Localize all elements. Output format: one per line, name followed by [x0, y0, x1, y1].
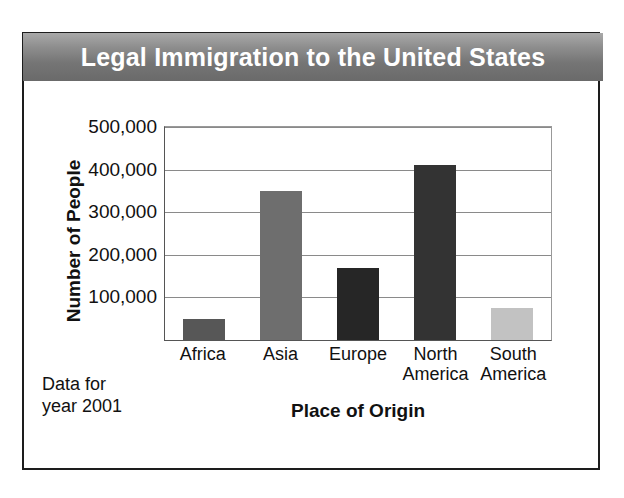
x-tick-label: Asia: [242, 344, 320, 384]
bar: [260, 191, 302, 340]
y-tick-label: 300,000: [88, 201, 157, 223]
bar: [183, 319, 225, 340]
data-note-line-2: year 2001: [42, 396, 122, 418]
bar-slot: [165, 127, 242, 340]
data-note: Data for year 2001: [42, 374, 122, 417]
x-tick-label: Africa: [164, 344, 242, 384]
chart-figure: Legal Immigration to the United States N…: [22, 32, 600, 470]
x-tick-label: Europe: [319, 344, 397, 384]
bar-series: [165, 127, 551, 340]
chart-title: Legal Immigration to the United States: [81, 43, 546, 72]
bar: [491, 308, 533, 340]
y-tick-label: 200,000: [88, 244, 157, 266]
bar-slot: [242, 127, 319, 340]
y-axis-label: Number of People: [63, 151, 85, 331]
data-note-line-1: Data for: [42, 374, 122, 396]
x-tick-label: SouthAmerica: [474, 344, 552, 384]
chart-title-band: Legal Immigration to the United States: [23, 33, 603, 81]
bar-slot: [319, 127, 396, 340]
y-tick-label: 100,000: [88, 286, 157, 308]
bar: [414, 165, 456, 340]
x-axis-label: Place of Origin: [164, 400, 552, 422]
bar-slot: [474, 127, 551, 340]
x-tick-labels: AfricaAsiaEuropeNorthAmericaSouthAmerica: [164, 344, 552, 384]
bar: [337, 268, 379, 340]
chart-plot-area: Number of People 100,000200,000300,00040…: [24, 82, 598, 468]
y-tick-label: 500,000: [88, 116, 157, 138]
bar-slot: [397, 127, 474, 340]
y-tick-label: 400,000: [88, 159, 157, 181]
plot-box: 100,000200,000300,000400,000500,000: [164, 126, 552, 341]
x-tick-label: NorthAmerica: [397, 344, 475, 384]
